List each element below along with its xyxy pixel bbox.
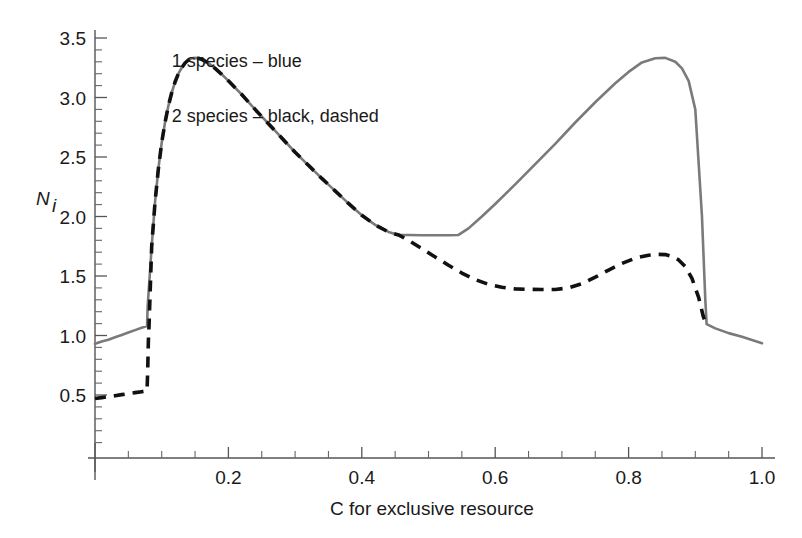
x-tick-label: 0.6 bbox=[482, 467, 508, 488]
x-tick-label: 0.2 bbox=[215, 467, 241, 488]
y-tick-label: 3.5 bbox=[60, 28, 86, 49]
y-axis-tick-labels: 0.51.01.52.02.53.03.5 bbox=[60, 28, 86, 406]
y-tick-label: 2.0 bbox=[60, 207, 86, 228]
y-axis-title-subscript: i bbox=[52, 195, 57, 216]
x-tick-label: 1.0 bbox=[749, 467, 775, 488]
y-tick-label: 0.5 bbox=[60, 385, 86, 406]
legend-entry-1: 1 species – blue bbox=[172, 51, 302, 71]
x-tick-label: 0.8 bbox=[615, 467, 641, 488]
y-axis-minor-ticks bbox=[95, 50, 102, 443]
line-chart-svg: 0.51.01.52.02.53.03.5 0.20.40.60.81.0 N … bbox=[0, 0, 802, 538]
y-tick-label: 2.5 bbox=[60, 147, 86, 168]
chart-legend: 1 species – blue2 species – black, dashe… bbox=[172, 51, 379, 127]
series-line-1 bbox=[95, 58, 762, 344]
x-axis-tick-labels: 0.20.40.60.81.0 bbox=[215, 467, 775, 488]
y-axis-title: N bbox=[36, 188, 50, 209]
y-axis-title-group: N i bbox=[36, 188, 57, 216]
y-tick-label: 1.5 bbox=[60, 266, 86, 287]
y-tick-label: 3.0 bbox=[60, 88, 86, 109]
x-axis-title: C for exclusive resource bbox=[330, 498, 534, 519]
x-axis-minor-ticks bbox=[128, 451, 728, 458]
legend-entry-2: 2 species – black, dashed bbox=[172, 106, 379, 126]
y-tick-label: 1.0 bbox=[60, 326, 86, 347]
x-tick-label: 0.4 bbox=[349, 467, 376, 488]
chart-figure: 0.51.01.52.02.53.03.5 0.20.40.60.81.0 N … bbox=[0, 0, 802, 538]
